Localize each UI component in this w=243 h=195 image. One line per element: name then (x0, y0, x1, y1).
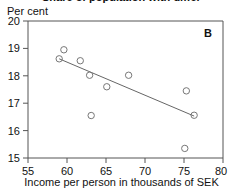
data-point-marker (77, 58, 83, 64)
trend-line-segment (59, 59, 194, 116)
y-axis-tick-labels: 15 16 17 18 19 20 (8, 15, 20, 164)
scatter-plot: 15 16 17 18 19 20 55 60 65 70 75 80 B (0, 0, 243, 195)
y-tick-20: 20 (8, 15, 20, 27)
panel-label-b: B (204, 27, 212, 39)
y-axis-ticks (23, 21, 28, 158)
y-tick-19: 19 (8, 42, 20, 54)
trend-line (59, 59, 194, 116)
data-point-marker (104, 84, 110, 90)
y-tick-18: 18 (8, 70, 20, 82)
data-point-marker (125, 72, 131, 78)
y-tick-15: 15 (8, 152, 20, 164)
axis-lines (28, 21, 223, 158)
data-point-markers (56, 47, 197, 152)
data-point-marker (61, 47, 67, 53)
data-point-marker (86, 72, 92, 78)
chart-figure: Share of population with different incom… (0, 0, 243, 195)
data-point-marker (183, 88, 189, 94)
y-tick-17: 17 (8, 97, 20, 109)
y-tick-16: 16 (8, 125, 20, 137)
data-point-marker (182, 145, 188, 151)
x-axis-ticks (28, 158, 223, 163)
data-point-marker (88, 112, 94, 118)
x-axis-label: Income per person in thousands of SEK (0, 176, 243, 189)
